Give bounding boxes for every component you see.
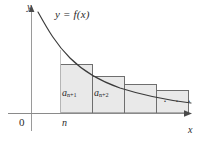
x-axis-label: x <box>188 125 192 135</box>
bar-label-a-n-plus-2: an+2 <box>94 88 109 98</box>
bar-label-a-n-plus-1-sub: n+1 <box>67 91 77 98</box>
figure-canvas <box>0 0 201 145</box>
curve-label: y = f(x) <box>55 9 90 20</box>
figure-integral-test: y = f(x) y x 0 n an+1 an+2 · · · <box>0 0 201 145</box>
y-axis <box>29 5 35 131</box>
bar-label-a-n-plus-2-sub: n+2 <box>99 91 109 98</box>
tick-label-n: n <box>62 118 67 128</box>
bar-label-a-n-plus-1: an+1 <box>62 88 77 98</box>
ellipsis-label: · · · <box>163 95 194 107</box>
y-axis-label: y <box>27 2 31 12</box>
bar-a-n-plus-3 <box>125 85 157 114</box>
origin-label: 0 <box>19 117 25 128</box>
